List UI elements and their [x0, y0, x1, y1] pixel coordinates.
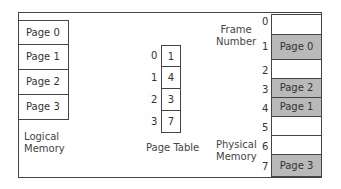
- frame-number-6: 6: [262, 141, 268, 153]
- page-table-index-2: 2: [151, 94, 157, 106]
- page-table-index-3: 3: [151, 116, 157, 128]
- logical-page-2: Page 2: [18, 70, 69, 95]
- page-table-entry-0: 1: [161, 45, 181, 67]
- page-table-entry-3: 7: [161, 111, 181, 133]
- physical-frame-7: Page 3: [271, 155, 322, 177]
- page-table-entry-1: 4: [161, 67, 181, 89]
- frame-number-5: 5: [262, 122, 268, 134]
- physical-memory: Page 0 Page 2 Page 1 Page 3: [271, 14, 322, 177]
- frame-number-1: 1: [262, 41, 268, 53]
- frame-number-7: 7: [262, 161, 268, 173]
- physical-memory-label-line2: Memory: [216, 151, 257, 163]
- logical-page-3: Page 3: [18, 95, 69, 120]
- physical-frame-6: [271, 136, 322, 155]
- physical-frame-5: [271, 117, 322, 136]
- physical-memory-label: Physical Memory: [216, 139, 257, 163]
- physical-frame-0: [271, 14, 322, 35]
- logical-page-1: Page 1: [18, 45, 69, 70]
- logical-memory-label-line1: Logical: [24, 131, 65, 143]
- logical-memory-label: Logical Memory: [24, 131, 65, 155]
- frame-number-0: 0: [262, 16, 268, 28]
- page-table-label: Page Table: [146, 142, 199, 153]
- frame-number-3: 3: [262, 84, 268, 96]
- physical-frame-2: [271, 60, 322, 79]
- logical-page-0: Page 0: [18, 20, 69, 45]
- page-table: 1 4 3 7: [161, 45, 181, 133]
- frame-number-label: Frame Number: [216, 24, 256, 48]
- physical-frame-4: Page 1: [271, 98, 322, 117]
- physical-memory-label-line1: Physical: [216, 139, 257, 151]
- frame-number-4: 4: [262, 103, 268, 115]
- logical-memory-label-line2: Memory: [24, 143, 65, 155]
- frame-number-label-line1: Frame: [216, 24, 256, 36]
- page-table-entry-2: 3: [161, 89, 181, 111]
- page-table-index-1: 1: [151, 72, 157, 84]
- physical-frame-1: Page 0: [271, 35, 322, 60]
- page-table-index-0: 0: [151, 50, 157, 62]
- frame-number-label-line2: Number: [216, 36, 256, 48]
- logical-memory: Page 0 Page 1 Page 2 Page 3: [18, 20, 69, 120]
- frame-number-2: 2: [262, 65, 268, 77]
- physical-frame-3: Page 2: [271, 79, 322, 98]
